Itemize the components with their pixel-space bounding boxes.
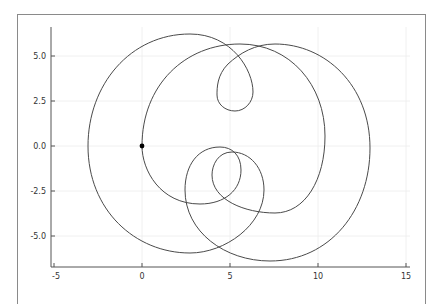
gridlines	[51, 27, 410, 267]
axes	[51, 27, 410, 267]
trajectory-curve	[88, 34, 370, 261]
start-point-marker	[140, 144, 145, 149]
y-tick-label: -2.5	[30, 187, 46, 196]
x-tick-label: 0	[139, 272, 144, 281]
y-tick-labels: 5.0 2.5 0.0 -2.5 -5.0	[30, 52, 46, 241]
x-tick-label: 5	[227, 272, 232, 281]
x-tick-label: 10	[313, 272, 323, 281]
x-tick-label: -5	[52, 272, 60, 281]
y-tick-label: -5.0	[30, 232, 46, 241]
y-tick-label: 2.5	[33, 97, 46, 106]
x-tick-label: 15	[401, 272, 411, 281]
y-tick-label: 0.0	[33, 142, 46, 151]
x-tick-labels: -5 0 5 10 15	[52, 272, 411, 281]
y-tick-label: 5.0	[33, 52, 46, 61]
